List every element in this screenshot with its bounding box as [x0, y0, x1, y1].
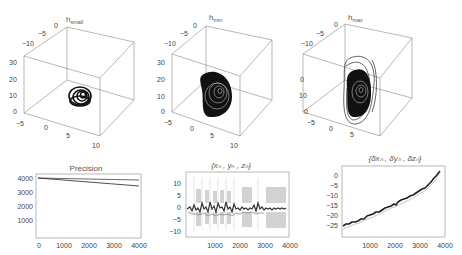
svg-text:5: 5 — [177, 192, 181, 199]
title-h-small: hsmall — [66, 15, 83, 25]
chart-xyz: {xₙ , yₙ , zₙ} 10 5 0 −5 −10 1000 2000 3… — [169, 161, 298, 249]
plot-frame — [342, 166, 445, 237]
svg-text:2000: 2000 — [81, 242, 97, 249]
svg-text:0: 0 — [334, 21, 338, 28]
title-h-min: hmin — [209, 13, 222, 23]
svg-text:4000: 4000 — [282, 242, 298, 249]
svg-text:0: 0 — [54, 22, 58, 29]
svg-text:2000: 2000 — [387, 242, 403, 249]
svg-text:10: 10 — [9, 92, 17, 99]
svg-text:4000: 4000 — [17, 175, 33, 182]
svg-text:2000: 2000 — [232, 242, 248, 249]
svg-text:−5: −5 — [173, 216, 181, 223]
svg-text:2000: 2000 — [17, 203, 33, 210]
svg-text:−5: −5 — [316, 30, 324, 37]
svg-text:1000: 1000 — [207, 242, 223, 249]
svg-text:−5: −5 — [330, 182, 338, 189]
svg-text:5: 5 — [350, 131, 354, 138]
svg-text:−10: −10 — [164, 40, 176, 47]
attractor-h-small — [69, 87, 91, 106]
svg-text:5: 5 — [210, 132, 214, 139]
svg-text:10: 10 — [299, 92, 307, 99]
svg-text:−20: −20 — [326, 212, 338, 219]
svg-text:30: 30 — [157, 59, 165, 66]
chart-precision: Precision 4000 3000 2000 1000 0 1000 200… — [17, 164, 146, 249]
svg-text:30: 30 — [9, 59, 17, 66]
svg-text:10: 10 — [173, 180, 181, 187]
svg-text:−5: −5 — [16, 120, 24, 127]
svg-text:0: 0 — [161, 108, 165, 115]
svg-text:0: 0 — [304, 108, 308, 115]
svg-text:−10: −10 — [326, 192, 338, 199]
svg-text:−5: −5 — [164, 119, 172, 126]
svg-text:0: 0 — [177, 204, 181, 211]
series-log-error — [343, 171, 440, 226]
svg-text:−25: −25 — [326, 222, 338, 229]
svg-text:1000: 1000 — [56, 242, 72, 249]
svg-text:20: 20 — [9, 76, 17, 83]
svg-text:0: 0 — [190, 125, 194, 132]
title-h-max: hmax — [348, 13, 363, 23]
svg-text:1000: 1000 — [17, 217, 33, 224]
svg-text:0: 0 — [300, 76, 304, 83]
svg-text:4000: 4000 — [437, 242, 453, 249]
svg-text:3000: 3000 — [106, 242, 122, 249]
figure: 0 −5 −10 30 20 10 0 −5 0 5 10 hsmall 0 −… — [0, 0, 462, 255]
svg-text:0: 0 — [37, 242, 41, 249]
svg-text:3000: 3000 — [257, 242, 273, 249]
svg-text:10: 10 — [157, 93, 165, 100]
svg-text:10: 10 — [230, 142, 238, 149]
svg-text:10: 10 — [92, 142, 100, 149]
attractor-h-max — [344, 56, 377, 124]
svg-text:−15: −15 — [326, 202, 338, 209]
svg-text:−10: −10 — [169, 228, 181, 235]
svg-text:−10: −10 — [301, 40, 313, 47]
attractor-h-min — [200, 72, 232, 117]
svg-text:−5: −5 — [307, 119, 315, 126]
svg-text:4000: 4000 — [131, 242, 147, 249]
svg-text:3000: 3000 — [412, 242, 428, 249]
svg-text:1000: 1000 — [362, 242, 378, 249]
svg-text:0: 0 — [193, 22, 197, 29]
box-back-edges — [24, 27, 134, 100]
chart-delta: {δxₙ , δyₙ , δzₙ} 0 −5 −10 −15 −20 −25 1… — [326, 154, 453, 249]
svg-text:0: 0 — [13, 108, 17, 115]
svg-text:0: 0 — [44, 124, 48, 131]
axis-ticks-h-max: 0 −5 −10 0 10 0 −5 0 5 — [299, 21, 354, 138]
box-top-front — [24, 42, 134, 78]
panel-h-small — [24, 27, 134, 136]
title-delta: {δxₙ , δyₙ , δzₙ} — [368, 154, 421, 163]
svg-text:0: 0 — [329, 125, 333, 132]
svg-text:−5: −5 — [38, 30, 46, 37]
svg-text:−10: −10 — [22, 40, 34, 47]
svg-text:3000: 3000 — [17, 189, 33, 196]
svg-text:20: 20 — [157, 76, 165, 83]
title-xyz: {xₙ , yₙ , zₙ} — [211, 161, 251, 170]
plot-frame — [36, 174, 141, 238]
title-precision: Precision — [70, 164, 103, 173]
svg-text:−5: −5 — [180, 30, 188, 37]
svg-text:5: 5 — [66, 132, 70, 139]
svg-text:0: 0 — [334, 172, 338, 179]
